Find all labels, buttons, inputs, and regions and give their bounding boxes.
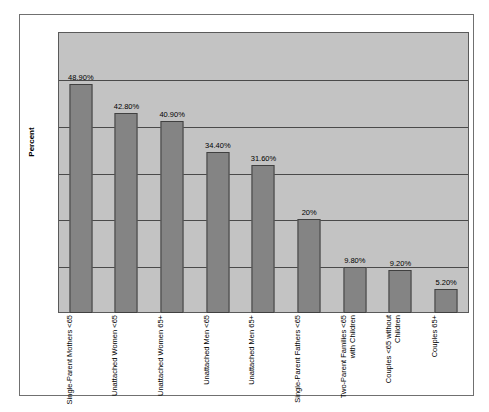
bar-group: 9.80% [332, 32, 378, 313]
bar[interactable] [115, 113, 138, 313]
category-label-text: Unattached Women 65+ [157, 315, 187, 409]
category-label-text: Single-Parent Fathers <65 [294, 315, 324, 409]
category-label-text: Unattached Men <65 [203, 315, 233, 409]
bar-value-label: 31.60% [251, 154, 276, 163]
bar[interactable] [252, 165, 275, 313]
category-label-text: Couples 65+ [431, 315, 461, 409]
category-label-text: Unattached Women <65 [111, 315, 141, 409]
category-label-text: Unattached Men 65+ [248, 315, 278, 409]
x-axis-tick-label: Couples 65+ [423, 315, 469, 409]
x-axis-tick-label: Two-Parent Families <65 with Children [332, 315, 378, 409]
chart-frame: Percent 48.90%42.80%40.90%34.40%31.60%20… [19, 14, 474, 396]
bar-group: 34.40% [195, 32, 241, 313]
bar[interactable] [206, 152, 229, 313]
bar-value-label: 34.40% [205, 141, 230, 150]
bar-value-label: 5.20% [436, 278, 457, 287]
bar[interactable] [298, 219, 321, 313]
bar-value-label: 20% [302, 208, 317, 217]
bar[interactable] [389, 270, 412, 313]
bar-group: 9.20% [378, 32, 424, 313]
bar[interactable] [435, 289, 458, 313]
bar-value-label: 42.80% [114, 102, 139, 111]
x-axis-tick-label: Couples <65 without Children [378, 315, 424, 409]
bar-group: 42.80% [104, 32, 150, 313]
y-axis-title: Percent [25, 112, 39, 172]
category-label-text: Couples <65 without Children [385, 315, 415, 409]
bar-group: 5.20% [423, 32, 469, 313]
category-label-text: Single-Parent Mothers <65 [66, 315, 96, 409]
bar-value-label: 9.80% [344, 256, 365, 265]
x-axis-tick-label: Unattached Women 65+ [149, 315, 195, 409]
category-label-text: Two-Parent Families <65 with Children [340, 315, 370, 409]
x-axis-tick-label: Unattached Women <65 [104, 315, 150, 409]
x-axis-category-labels: Single-Parent Mothers <65Unattached Wome… [58, 315, 469, 409]
bar-value-label: 48.90% [68, 73, 93, 82]
bar[interactable] [343, 267, 366, 313]
bar-value-label: 40.90% [159, 110, 184, 119]
x-axis-tick-label: Unattached Men 65+ [241, 315, 287, 409]
x-axis-tick-label: Unattached Men <65 [195, 315, 241, 409]
bar-group: 48.90% [58, 32, 104, 313]
bar[interactable] [69, 84, 92, 313]
bar-group: 40.90% [149, 32, 195, 313]
x-axis-tick-label: Single-Parent Fathers <65 [286, 315, 332, 409]
bar-value-label: 9.20% [390, 259, 411, 268]
bar-group: 31.60% [241, 32, 287, 313]
bar-series: 48.90%42.80%40.90%34.40%31.60%20%9.80%9.… [58, 32, 469, 313]
x-axis-tick-label: Single-Parent Mothers <65 [58, 315, 104, 409]
bar[interactable] [161, 121, 184, 313]
bar-group: 20% [286, 32, 332, 313]
